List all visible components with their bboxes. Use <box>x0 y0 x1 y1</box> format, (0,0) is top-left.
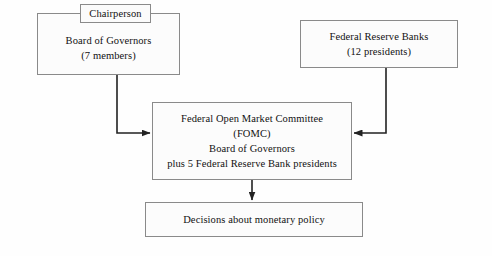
chairperson-label: Chairperson <box>89 6 141 21</box>
banks-to-fomc-arrow <box>354 68 386 133</box>
connector-layer <box>0 0 492 256</box>
board-to-fomc-arrow <box>117 75 150 133</box>
federal-reserve-flowchart: Board of Governors (7 members) Chairpers… <box>0 0 492 256</box>
chairperson-box: Chairperson <box>80 4 151 23</box>
